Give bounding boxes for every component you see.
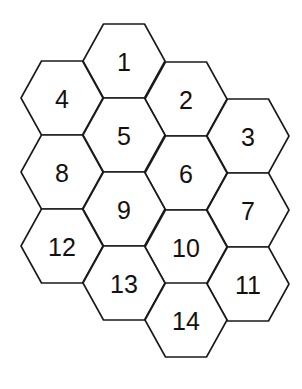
hex-label: 11 <box>235 271 261 299</box>
hex-label: 12 <box>48 233 76 261</box>
hex-grid-diagram: 1234567891011121314 <box>0 0 302 389</box>
hex-label: 1 <box>117 48 131 76</box>
hex-label: 5 <box>117 122 131 150</box>
hex-label: 7 <box>241 197 255 225</box>
hex-label: 13 <box>110 270 138 298</box>
hex-label: 9 <box>117 196 131 224</box>
hex-label: 2 <box>179 86 193 114</box>
hex-label: 4 <box>55 85 69 113</box>
hex-label: 10 <box>172 234 200 262</box>
hex-label: 6 <box>179 160 193 188</box>
hex-label: 8 <box>55 159 69 187</box>
hex-label: 14 <box>172 307 200 335</box>
hex-label: 3 <box>241 123 255 151</box>
